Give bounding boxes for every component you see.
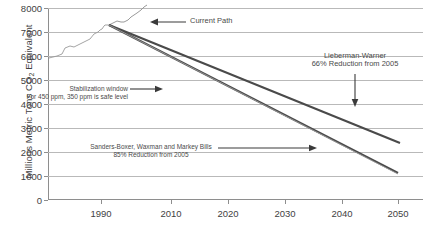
- annotation-sanders-boxer: Sanders-Boxer, Waxman and Markey Bills 8…: [86, 143, 216, 159]
- annotation-stabilization-window-line2: For 450 ppm, 350 ppm is safe level: [24, 93, 128, 101]
- annotation-lieberman-warner: Lieberman-Warner 66% Reduction from 2005: [301, 52, 409, 68]
- annotation-stabilization-window: Stabilization window For 450 ppm, 350 pp…: [24, 85, 128, 101]
- series-overlay: [0, 0, 431, 235]
- series-historical-emissions: [49, 25, 109, 58]
- annotation-current-path: Current Path: [190, 17, 233, 25]
- series-current-path: [109, 5, 147, 25]
- sanders-boxer-arrow-icon: [218, 145, 317, 152]
- current-path-arrow-icon: [150, 19, 186, 26]
- annotation-stabilization-window-line1: Stabilization window: [24, 85, 128, 93]
- series-lieberman-warner: [109, 25, 400, 143]
- lieberman-warner-arrow-icon: [352, 74, 359, 107]
- emissions-chart: Millions Metric Tons CO2 Equivalent 8000…: [0, 0, 431, 235]
- annotation-sanders-boxer-line1: Sanders-Boxer, Waxman and Markey Bills: [86, 143, 216, 151]
- annotation-lieberman-warner-line2: 66% Reduction from 2005: [301, 60, 409, 68]
- annotation-sanders-boxer-line2: 85% Reduction from 2005: [86, 151, 216, 159]
- stabilization-window-arrow-icon: [130, 86, 163, 93]
